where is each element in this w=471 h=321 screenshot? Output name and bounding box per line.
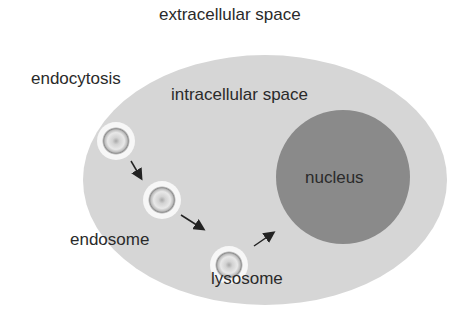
extracellular-space-label: extracellular space [159, 6, 301, 23]
vesicle-endosome [143, 181, 181, 219]
endocytosis-label: endocytosis [31, 70, 121, 87]
endosome-label: endosome [70, 231, 149, 248]
vesicle-endocytosis [97, 122, 135, 160]
nucleus-label: nucleus [305, 169, 364, 186]
intracellular-space-label: intracellular space [171, 86, 308, 103]
lysosome-label: lysosome [211, 270, 283, 287]
